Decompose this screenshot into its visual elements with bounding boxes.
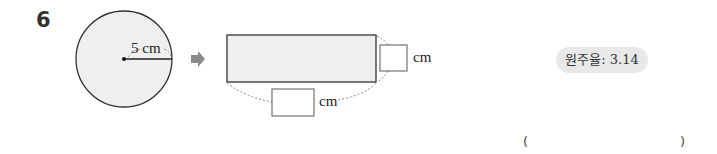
unrolled-rectangle [227,35,376,82]
height-unit-label: cm [413,49,431,66]
answer-open-paren: ( [523,134,528,149]
answer-field[interactable] [535,134,675,152]
width-answer-box[interactable] [272,89,314,116]
figure [0,0,717,154]
pi-value-badge: 원주율: 3.14 [556,47,648,73]
arrow-icon [191,51,205,67]
answer-close-paren: ) [680,134,685,149]
width-unit-label: cm [319,93,337,110]
center-dot [122,57,126,61]
radius-label: 5 cm [131,40,161,57]
height-answer-box[interactable] [380,45,407,71]
